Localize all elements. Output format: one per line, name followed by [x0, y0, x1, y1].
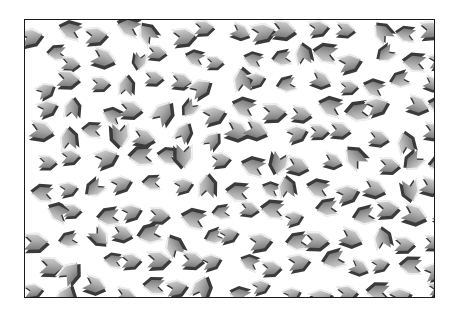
- chevron-shape: [343, 100, 371, 123]
- chevron-shape: [431, 207, 434, 227]
- chevron-shape: [337, 226, 366, 252]
- chevron-shape: [60, 149, 82, 167]
- chevron-shape: [113, 20, 142, 39]
- chevron-shape: [237, 251, 261, 273]
- chevron-shape: [58, 180, 80, 199]
- chevron-shape: [95, 206, 121, 227]
- chevron-shape: [171, 26, 198, 48]
- chevron-shape: [131, 51, 148, 72]
- chevron-shape: [228, 22, 253, 45]
- chevron-shape: [202, 226, 226, 247]
- chevron-shape: [172, 176, 196, 196]
- chevron-shape: [290, 105, 314, 125]
- chevron-shape: [217, 225, 241, 246]
- chevron-shape: [286, 252, 313, 274]
- chevron-shape: [25, 26, 46, 50]
- chevron-shape: [283, 209, 306, 229]
- image-frame: [24, 19, 435, 298]
- chevron-shape: [210, 151, 233, 170]
- chevron-shape: [399, 178, 421, 205]
- chevron-shape: [310, 124, 331, 140]
- chevron-shape: [108, 173, 135, 196]
- chevron-shape: [81, 175, 108, 201]
- chevron-shape: [114, 286, 138, 297]
- chevron-shape: [144, 71, 165, 87]
- chevron-shape: [266, 150, 290, 178]
- chevron-shape: [81, 122, 102, 139]
- chevron-shape: [281, 285, 304, 297]
- chevron-shape: [181, 251, 205, 270]
- chevron-shape: [239, 201, 261, 219]
- chevron-shape: [102, 252, 123, 270]
- chevron-shape: [336, 51, 365, 76]
- chevron-shape: [110, 224, 135, 246]
- chevron-shape: [186, 74, 216, 102]
- chevron-shape: [395, 129, 418, 156]
- chevron-shape: [164, 277, 190, 297]
- chevron-shape: [59, 126, 79, 151]
- chevron-shape: [426, 153, 434, 175]
- chevron-shape: [182, 47, 206, 68]
- chevron-shape: [367, 129, 391, 149]
- chevron-shape: [55, 256, 87, 289]
- chevron-shape: [401, 52, 427, 73]
- chevron-shape: [334, 181, 363, 207]
- chevron-shape: [227, 284, 252, 297]
- chevron-shape: [84, 26, 110, 47]
- chevron-shape: [379, 157, 402, 175]
- chevron-shape: [250, 277, 272, 296]
- chevron-shape: [394, 25, 417, 44]
- chevron-shape: [424, 235, 434, 252]
- chevron-shape: [198, 173, 217, 198]
- chevron-shape: [259, 179, 282, 199]
- chevron-shape: [319, 247, 347, 272]
- chevron-shape: [35, 97, 61, 120]
- chevron-shape: [194, 20, 216, 37]
- chevron-shape: [262, 103, 288, 124]
- chevron-shape: [419, 20, 434, 41]
- chevron-shape: [361, 177, 389, 202]
- chevron-shape: [248, 231, 275, 254]
- chevron-shape: [421, 259, 434, 285]
- chevron-shape: [147, 45, 169, 63]
- chevron-shape: [387, 285, 415, 297]
- chevron-shape: [340, 80, 360, 96]
- chevron-shape: [134, 221, 163, 246]
- chevron-shape: [30, 183, 54, 202]
- chevron-shape: [127, 145, 154, 167]
- chevron-shape: [141, 175, 161, 191]
- chevron-shape: [238, 154, 267, 179]
- chevron-shape: [387, 69, 412, 91]
- chevron-shape: [63, 96, 82, 119]
- chevron-shape: [339, 141, 371, 173]
- chevron-shape: [92, 145, 122, 172]
- chevron-shape: [360, 76, 387, 99]
- chevron-shape: [172, 119, 197, 146]
- chevron-shape: [369, 20, 397, 46]
- chevron-shape: [315, 93, 344, 119]
- chevron-shape: [421, 74, 434, 95]
- chevron-shape: [109, 123, 131, 150]
- chevron-shape: [270, 49, 293, 68]
- chevron-shape: [276, 174, 297, 200]
- chevron-shape: [56, 70, 81, 90]
- chevron-shape: [418, 176, 434, 200]
- chevron-shape: [274, 74, 298, 94]
- chevron-shape: [86, 224, 114, 252]
- chevron-shape: [206, 56, 225, 70]
- chevron-shape: [365, 282, 390, 297]
- chevron-shape: [119, 101, 144, 121]
- chevron-shape: [394, 237, 416, 254]
- chevron-shape: [375, 199, 401, 220]
- chevron-shape: [119, 201, 144, 223]
- chevron-shape: [259, 199, 285, 220]
- chevron-shape: [307, 20, 331, 39]
- chevron-shape: [304, 177, 331, 200]
- chevron-shape: [350, 204, 377, 228]
- chevron-shape: [347, 257, 372, 279]
- chevron-shape: [249, 21, 278, 46]
- chevron-shape: [398, 256, 422, 275]
- chevron-shape: [329, 121, 353, 140]
- chevron-shape: [400, 202, 431, 229]
- chevron-shape: [284, 231, 309, 252]
